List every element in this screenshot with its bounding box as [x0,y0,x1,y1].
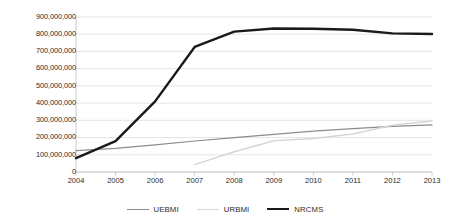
legend-item-uebmi[interactable]: UEBMI [127,205,179,214]
y-axis-tick-label: 300,000,000 [4,116,76,124]
x-axis-tick-label: 2009 [254,176,294,185]
legend-swatch-icon [197,209,219,210]
series-line-urbmi [195,121,432,165]
y-axis-tick-label: 0 [4,168,76,176]
y-axis-tick-label: 700,000,000 [4,47,76,55]
legend-label: UEBMI [154,205,179,214]
chart-legend: UEBMIURBMINRCMS [0,198,450,220]
legend-label: NRCMS [294,205,323,214]
series-lines [76,29,432,165]
axis-lines [76,17,432,172]
x-axis-tick-label: 2011 [333,176,373,185]
x-axis-tick-label: 2004 [56,176,96,185]
y-axis-tick-label: 400,000,000 [4,99,76,107]
line-chart: 0100,000,000200,000,000300,000,000400,00… [0,0,450,222]
y-axis-tick-label: 200,000,000 [4,133,76,141]
x-axis-tick-label: 2008 [214,176,254,185]
legend-swatch-icon [267,208,289,210]
plot-area: 0100,000,000200,000,000300,000,000400,00… [0,0,450,196]
x-axis-tick-label: 2010 [293,176,333,185]
x-axis-tick-label: 2006 [135,176,175,185]
x-axis-tick-label: 2007 [175,176,215,185]
y-axis-tick-label: 600,000,000 [4,64,76,72]
legend-label: URBMI [224,205,250,214]
y-axis-tick-label: 500,000,000 [4,82,76,90]
series-line-nrcms [76,29,432,159]
x-axis-tick-label: 2012 [372,176,412,185]
y-axis-tick-label: 900,000,000 [4,13,76,21]
gridlines [76,17,432,172]
y-axis-tick-label: 100,000,000 [4,151,76,159]
y-axis-tick-label: 800,000,000 [4,30,76,38]
legend-item-nrcms[interactable]: NRCMS [267,205,323,214]
legend-swatch-icon [127,209,149,210]
x-axis-ticks [76,172,432,176]
x-axis-tick-label: 2013 [412,176,450,185]
legend-item-urbmi[interactable]: URBMI [197,205,250,214]
x-axis-tick-label: 2005 [96,176,136,185]
